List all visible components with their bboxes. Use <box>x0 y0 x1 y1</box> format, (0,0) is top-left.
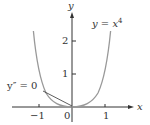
y-tick-label-1: 1 <box>62 69 68 79</box>
function-label-exponent: 4 <box>118 17 122 25</box>
function-label: y = x4 <box>92 18 123 29</box>
function-label-base: y = x <box>92 18 118 29</box>
x-tick-label-1: 1 <box>103 111 109 121</box>
x-axis-arrow-icon <box>128 105 134 109</box>
inflection-annotation: y″ = 0 <box>7 81 37 91</box>
x-tick-label-0: 0 <box>64 111 70 121</box>
y-axis-label: y <box>68 1 74 11</box>
y-tick-label-2: 2 <box>62 36 68 46</box>
graph-canvas <box>0 0 150 125</box>
x-axis-label: x <box>137 102 143 112</box>
x-tick-label-neg1: −1 <box>30 111 45 121</box>
y-axis-arrow-icon <box>70 12 74 18</box>
